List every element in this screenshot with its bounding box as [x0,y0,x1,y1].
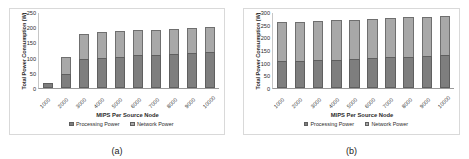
legend-item-network-b: Network Power [365,121,408,127]
chart-frame-a: Total Power Consumption (W) 250200150100… [9,8,225,135]
x-tick-label: 3000 [75,97,88,110]
bar-segment-processing[interactable] [187,53,197,88]
legend-item-network-a: Network Power [130,121,173,127]
bar-segment-processing[interactable] [61,74,71,88]
bar-slot [147,13,165,88]
stacked-bar[interactable] [79,34,89,88]
bar-segment-network[interactable] [403,17,413,56]
x-tick-slot: 6000 [363,90,381,112]
bar-segment-network[interactable] [151,30,161,55]
stacked-bar[interactable] [187,28,197,88]
x-tick-label: 9000 [418,97,431,110]
bar-segment-network[interactable] [422,17,432,56]
legend-label-network: Network Power [371,121,408,127]
bar-segment-network[interactable] [440,16,450,55]
bar-slot [273,13,291,88]
bar-segment-network[interactable] [295,22,305,61]
legend-swatch-network-icon [130,122,135,127]
bar-segment-processing[interactable] [151,55,161,88]
stacked-bar[interactable] [385,18,395,88]
x-tick-label: 6000 [364,97,377,110]
bar-segment-processing[interactable] [367,58,377,88]
bar-segment-processing[interactable] [331,60,341,88]
x-tick-label: 1000 [273,97,286,110]
x-tick-label: 3000 [309,97,322,110]
stacked-bar[interactable] [403,17,413,88]
legend-label-processing: Processing Power [310,121,353,127]
bar-segment-network[interactable] [313,21,323,60]
bar-slot [75,13,93,88]
bar-segment-network[interactable] [61,57,71,74]
x-tick-slot: 3000 [74,90,92,112]
stacked-bar[interactable] [169,29,179,88]
stacked-bar[interactable] [133,30,143,88]
bar-segment-processing[interactable] [277,61,287,88]
x-tick-label: 9000 [183,97,196,110]
bar-segment-processing[interactable] [295,61,305,88]
stacked-bar[interactable] [61,57,71,88]
bar-segment-network[interactable] [277,22,287,61]
bar-segment-network[interactable] [385,18,395,57]
stacked-bar[interactable] [277,22,287,88]
bar-segment-processing[interactable] [115,57,125,88]
bar-segment-network[interactable] [187,28,197,53]
bar-segment-processing[interactable] [169,54,179,88]
stacked-bar[interactable] [205,27,215,88]
bar-segment-processing[interactable] [349,59,359,88]
stacked-bar[interactable] [367,19,377,88]
bar-segment-network[interactable] [79,34,89,59]
y-tick-label: 300 [261,10,270,16]
x-tick-label: 2000 [57,97,70,110]
bar-segment-network[interactable] [367,19,377,58]
x-tick-label: 6000 [129,97,142,110]
bar-segment-processing[interactable] [43,83,53,88]
x-tick-slot: 4000 [327,90,345,112]
stacked-bar[interactable] [331,20,341,88]
bar-segment-processing[interactable] [133,55,143,88]
stacked-bar[interactable] [349,20,359,88]
stacked-bar[interactable] [115,31,125,88]
bar-slot [382,13,400,88]
x-tick-slot: 9000 [418,90,436,112]
bar-slot [309,13,327,88]
x-tick-slot: 2000 [290,90,308,112]
y-tick-label: 100 [261,61,270,67]
bar-slot [93,13,111,88]
bar-segment-network[interactable] [331,20,341,59]
bar-segment-network[interactable] [349,20,359,59]
y-axis-ticks-b: 300250200150100500 [257,13,271,89]
bar-segment-network[interactable] [169,29,179,55]
x-tick-slot: 6000 [128,90,146,112]
stacked-bar[interactable] [422,17,432,88]
bar-slot [327,13,345,88]
bar-segment-processing[interactable] [79,59,89,88]
stacked-bar[interactable] [440,16,450,88]
bar-segment-network[interactable] [205,27,215,52]
x-tick-label: 10000 [201,95,216,110]
bar-segment-processing[interactable] [403,57,413,88]
stacked-bar[interactable] [313,21,323,88]
bar-segment-processing[interactable] [313,60,323,88]
legend-a: Processing Power Network Power [25,121,218,127]
bar-segment-network[interactable] [97,32,107,57]
bar-segment-network[interactable] [115,31,125,57]
bar-group-a [39,13,219,88]
x-tick-label: 8000 [400,97,413,110]
stacked-bar[interactable] [43,83,53,88]
stacked-bar[interactable] [295,22,305,88]
legend-b: Processing Power Network Power [259,121,453,127]
bar-segment-processing[interactable] [440,55,450,88]
bar-segment-processing[interactable] [422,56,432,88]
x-tick-slot: 4000 [92,90,110,112]
x-tick-slot: 8000 [165,90,183,112]
bar-segment-network[interactable] [133,30,143,55]
bar-segment-processing[interactable] [385,57,395,88]
bar-segment-processing[interactable] [97,58,107,88]
bar-slot [436,13,454,88]
y-tick-label: 150 [27,40,36,46]
bar-slot [345,13,363,88]
bar-segment-processing[interactable] [205,52,215,88]
stacked-bar[interactable] [151,30,161,88]
x-tick-slot: 1000 [272,90,290,112]
stacked-bar[interactable] [97,32,107,88]
